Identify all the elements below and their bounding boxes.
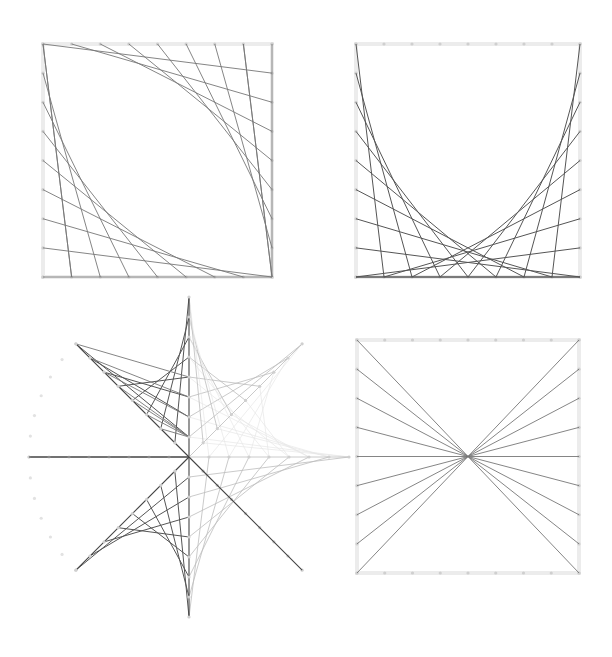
pin-dot <box>40 394 43 397</box>
pin-dot <box>117 526 120 529</box>
pin-dot <box>466 338 469 341</box>
pin-dot <box>145 413 148 416</box>
string-line <box>132 514 189 557</box>
pin-dot <box>74 342 77 345</box>
panel-bowtie-lines <box>355 338 580 574</box>
pin-dot <box>159 484 162 487</box>
pin-dot <box>173 470 176 473</box>
pin-dot <box>33 414 36 417</box>
string-line <box>215 44 272 248</box>
pin-dot <box>466 42 469 45</box>
pin-dot <box>301 342 304 345</box>
pin-dot <box>202 441 205 444</box>
pin-dot <box>117 385 120 388</box>
string-line <box>384 219 580 277</box>
pin-dot <box>522 42 525 45</box>
pin-dot <box>88 554 91 557</box>
pin-dot <box>187 415 190 418</box>
pin-dot <box>187 395 190 398</box>
panel-star-curves <box>27 295 350 618</box>
pin-dot <box>327 455 330 458</box>
panel-leaf-curves <box>41 42 273 278</box>
pin-dot <box>187 495 190 498</box>
string-line <box>356 190 524 277</box>
pin-dot <box>60 358 63 361</box>
pin-dot <box>550 338 553 341</box>
pin-dot <box>411 571 414 574</box>
string-line <box>356 73 412 277</box>
pin-dot <box>267 455 270 458</box>
pin-dot <box>49 375 52 378</box>
pin-dot <box>29 476 32 479</box>
string-line <box>203 443 349 457</box>
string-line <box>43 190 215 277</box>
pin-dot <box>173 441 176 444</box>
pin-dot <box>244 399 247 402</box>
pin-dot <box>287 455 290 458</box>
string-line <box>189 337 249 457</box>
pin-dot <box>49 535 52 538</box>
pin-dot <box>247 455 250 458</box>
pin-dot <box>187 355 190 358</box>
pin-dot <box>522 338 525 341</box>
pin-dot <box>159 427 162 430</box>
pin-dot <box>187 555 190 558</box>
pin-dot <box>410 42 413 45</box>
pin-dot <box>522 571 525 574</box>
pin-dot <box>382 42 385 45</box>
string-line <box>161 485 189 597</box>
pin-dot <box>466 571 469 574</box>
pin-dot <box>187 575 190 578</box>
string-line <box>147 499 189 577</box>
string-line <box>189 457 229 597</box>
string-line <box>496 102 580 277</box>
pin-dot <box>550 571 553 574</box>
string-line <box>356 219 552 277</box>
pin-dot <box>286 356 289 359</box>
pin-dot <box>74 569 77 572</box>
string-line <box>43 102 129 277</box>
pin-dot <box>187 315 190 318</box>
string-line <box>189 397 309 457</box>
pin-dot <box>187 295 190 298</box>
string-line <box>189 457 309 517</box>
pin-dot <box>550 42 553 45</box>
string-line <box>175 297 189 443</box>
string-line <box>189 457 329 497</box>
pin-dot <box>411 338 414 341</box>
string-art-figure <box>0 0 612 657</box>
pin-dot <box>187 475 190 478</box>
pin-dot <box>88 356 91 359</box>
pin-dot <box>383 571 386 574</box>
string-line <box>76 477 189 570</box>
string-line <box>412 190 580 277</box>
pin-dot <box>131 512 134 515</box>
string-line <box>356 102 440 277</box>
string-line <box>189 457 249 577</box>
pin-dot <box>103 371 106 374</box>
string-line <box>524 73 580 277</box>
pin-dot <box>40 517 43 520</box>
pin-dot <box>103 540 106 543</box>
pin-dot <box>187 535 190 538</box>
pin-dot <box>383 338 386 341</box>
pin-dot <box>494 571 497 574</box>
pin-dot <box>207 455 210 458</box>
string-line <box>72 44 272 102</box>
string-line <box>147 337 189 415</box>
pin-dot <box>347 455 350 458</box>
pin-dot <box>494 42 497 45</box>
string-line <box>43 73 100 277</box>
panel-frame <box>356 44 580 277</box>
pin-dot <box>230 413 233 416</box>
string-line <box>175 471 189 617</box>
pin-dot <box>494 338 497 341</box>
pin-dot <box>131 399 134 402</box>
pin-dot <box>439 338 442 341</box>
string-line <box>189 457 302 570</box>
pin-dot <box>187 515 190 518</box>
pin-dot <box>187 375 190 378</box>
panel-frame <box>43 44 272 277</box>
string-line <box>132 400 189 437</box>
pin-dot <box>438 42 441 45</box>
